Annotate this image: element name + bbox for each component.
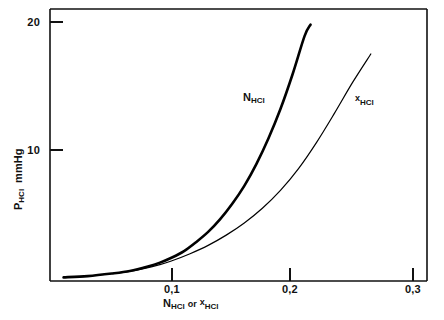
chart-plot-area (0, 0, 444, 320)
x-axis-title-first-subscript: HCl (171, 302, 185, 311)
y-axis-ticks (50, 22, 63, 150)
curve-label-x-subscript: HCl (360, 98, 374, 107)
x-axis-title: NHClorxHCl (163, 297, 219, 309)
curve-label-x-hcl: xHCl (355, 93, 374, 105)
x-axis-title-second-subscript: HCl (205, 302, 219, 311)
curve-label-n-subscript: HCl (251, 96, 265, 105)
x-axis-title-conjunction: or (185, 299, 200, 309)
y-tick-label-20: 20 (12, 16, 40, 28)
x-axis-title-first-main: N (163, 297, 171, 309)
x-axis-title-second-main: x (200, 297, 205, 307)
curve-label-n-hcl: NHCl (243, 91, 265, 103)
plot-frame (50, 9, 427, 281)
y-axis-title-main: P (12, 203, 24, 210)
curve-label-n-main: N (243, 91, 251, 103)
curve-x-hcl (64, 54, 371, 277)
x-tick-label-0-1: 0,1 (154, 283, 190, 295)
y-axis-title: PHClmmHg (12, 149, 24, 210)
curve-n-hcl (64, 25, 311, 278)
x-axis-ticks (172, 268, 413, 281)
chart-figure: 20 10 0,1 0,2 0,3 PHClmmHg NHClorxHCl NH… (0, 0, 444, 320)
y-axis-title-subscript: HCl (17, 189, 26, 203)
x-tick-label-0-3: 0,3 (395, 283, 431, 295)
x-tick-label-0-2: 0,2 (272, 283, 308, 295)
y-axis-title-units: mmHg (12, 149, 24, 189)
